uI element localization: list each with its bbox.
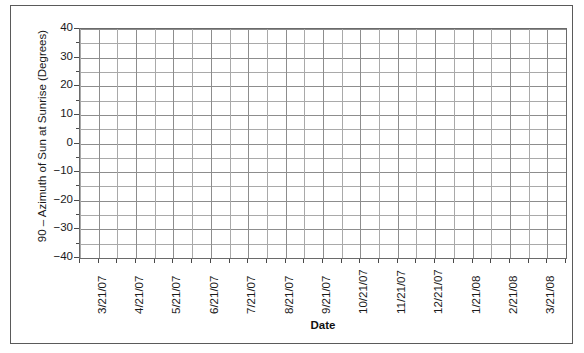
gridline-vertical <box>211 29 212 258</box>
x-axis-tick-label: 9/21/07 <box>320 264 332 314</box>
gridline-vertical <box>230 29 231 258</box>
x-axis-tick-mark <box>322 259 323 263</box>
x-axis-tick-mark <box>490 259 491 263</box>
gridline-vertical <box>360 29 361 258</box>
x-axis-tick-mark <box>378 259 379 263</box>
x-axis-tick-mark <box>98 259 99 263</box>
gridline-vertical <box>323 29 324 258</box>
x-axis-tick-label: 10/21/07 <box>357 264 369 314</box>
x-axis-tick-mark <box>285 259 286 263</box>
gridline-vertical <box>416 29 417 258</box>
x-axis-tick-label: 11/21/07 <box>395 264 407 314</box>
chart-figure-frame: 90 – Azimuth of Sun at Sunrise (Degrees)… <box>10 5 573 344</box>
x-axis-tick-label: 6/21/07 <box>208 264 220 314</box>
y-axis-tick-label: 30 <box>39 51 73 62</box>
x-axis-tick-label: 3/21/07 <box>96 264 108 314</box>
x-axis-tick-mark <box>303 259 304 263</box>
gridline-vertical <box>248 29 249 258</box>
x-axis-tick-mark <box>546 259 547 263</box>
x-axis-tick-mark <box>528 259 529 263</box>
x-axis-tick-label: 12/21/07 <box>432 264 444 314</box>
x-axis-tick-label: 3/21/08 <box>544 264 556 314</box>
y-axis-tick-label: 10 <box>39 108 73 119</box>
y-axis-tick-label: 20 <box>39 79 73 90</box>
gridline-vertical <box>136 29 137 258</box>
gridline-vertical <box>566 29 567 258</box>
gridline-vertical <box>267 29 268 258</box>
x-axis-tick-label: 1/21/08 <box>470 264 482 314</box>
x-axis-tick-label-group: 3/21/074/21/075/21/076/21/077/21/078/21/… <box>79 264 567 316</box>
x-axis-tick-mark <box>116 259 117 263</box>
gridline-vertical <box>342 29 343 258</box>
x-axis-tick-mark <box>210 259 211 263</box>
x-axis-tick-mark <box>509 259 510 263</box>
x-axis-tick-mark <box>154 259 155 263</box>
gridline-vertical <box>491 29 492 258</box>
y-axis-tick-label-group: 403020100−10−20−30−40 <box>39 28 73 259</box>
x-axis-tick-mark <box>472 259 473 263</box>
gridline-vertical <box>155 29 156 258</box>
y-axis-tick-label: −30 <box>39 222 73 233</box>
x-axis-tick-label: 8/21/07 <box>283 264 295 314</box>
gridline-vertical <box>510 29 511 258</box>
gridline-vertical <box>473 29 474 258</box>
gridline-vertical <box>379 29 380 258</box>
gridline-vertical <box>99 29 100 258</box>
gridline-vertical <box>117 29 118 258</box>
gridline-vertical <box>547 29 548 258</box>
x-axis-tick-mark <box>229 259 230 263</box>
x-axis-tick-mark <box>415 259 416 263</box>
gridline-vertical <box>80 29 81 258</box>
plot-area <box>79 28 567 259</box>
x-axis-tick-mark <box>397 259 398 263</box>
y-axis-tick-label: 40 <box>39 22 73 33</box>
gridline-vertical <box>435 29 436 258</box>
x-axis-tick-mark <box>434 259 435 263</box>
x-axis-tick-label: 7/21/07 <box>245 264 257 314</box>
x-axis-tick-mark <box>453 259 454 263</box>
y-axis-tick-label: 0 <box>39 137 73 148</box>
gridline-vertical <box>173 29 174 258</box>
gridline-vertical <box>286 29 287 258</box>
x-axis-tick-mark <box>266 259 267 263</box>
gridline-vertical <box>304 29 305 258</box>
x-axis-tick-label: 2/21/08 <box>507 264 519 314</box>
x-axis-tick-mark <box>79 259 80 263</box>
x-axis-tick-mark <box>191 259 192 263</box>
y-axis-tick-label: −20 <box>39 194 73 205</box>
y-axis-tick-label: −10 <box>39 165 73 176</box>
x-axis-tick-mark <box>341 259 342 263</box>
x-axis-tick-label: 4/21/07 <box>133 264 145 314</box>
y-axis-tick-label: −40 <box>39 251 73 262</box>
gridline-vertical <box>192 29 193 258</box>
x-axis-tick-mark <box>172 259 173 263</box>
x-axis-tick-mark <box>247 259 248 263</box>
gridline-vertical <box>454 29 455 258</box>
gridline-vertical <box>529 29 530 258</box>
x-axis-tick-mark <box>135 259 136 263</box>
gridline-vertical <box>398 29 399 258</box>
x-axis-tick-mark <box>565 259 566 263</box>
x-axis-tick-mark <box>359 259 360 263</box>
x-axis-title: Date <box>79 319 567 331</box>
x-axis-tick-label: 5/21/07 <box>170 264 182 314</box>
